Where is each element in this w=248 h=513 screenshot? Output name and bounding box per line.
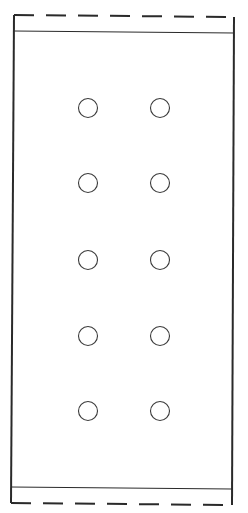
hole-circle-icon (151, 327, 170, 346)
right-edge (232, 17, 234, 505)
hole-circle-icon (151, 174, 170, 193)
hole-circle-icon (79, 251, 98, 270)
left-edge (11, 15, 14, 503)
bottom-dashed-edge (11, 503, 232, 505)
hole-circle-icon (151, 402, 170, 421)
hole-circle-icon (79, 327, 98, 346)
holes-group (79, 99, 170, 421)
top-dashed-edge (14, 15, 234, 17)
hole-circle-icon (79, 99, 98, 118)
top-inner-line (14, 31, 234, 33)
pin-layout-diagram (0, 0, 248, 513)
hole-circle-icon (79, 402, 98, 421)
bottom-inner-line (11, 487, 232, 489)
outline (11, 15, 234, 505)
hole-circle-icon (79, 174, 98, 193)
hole-circle-icon (151, 251, 170, 270)
hole-circle-icon (151, 99, 170, 118)
